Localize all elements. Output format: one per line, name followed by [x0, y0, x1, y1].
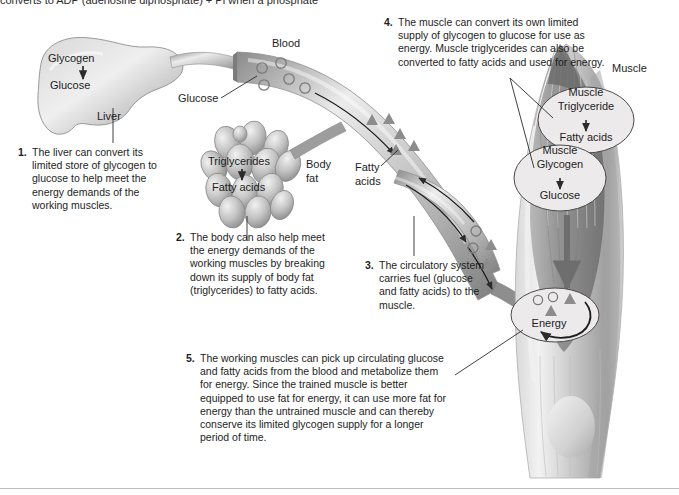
body-fat-illustration [196, 119, 306, 230]
muscle-triglyceride-product-label: Fatty acids [546, 130, 626, 144]
diagram-page: converts to ADP (adenosine diphosphate) … [0, 0, 679, 495]
callout-5-text: The working muscles can pick up circulat… [186, 352, 448, 444]
liver-label: Liver [97, 110, 121, 123]
liver-to-vessel-vessel [170, 52, 243, 71]
energy-label: Energy [518, 316, 580, 330]
triglycerides-label: Triglycerides [208, 155, 270, 168]
liver-glucose-label: Glucose [50, 79, 90, 92]
blood-glucose-label: Glucose [178, 92, 218, 105]
blood-label: Blood [272, 37, 300, 50]
callout-2: 2. The body can also help meet the energ… [176, 231, 334, 297]
body-fat-to-vessel-connector [290, 122, 346, 159]
callout-5-number: 5. [186, 352, 195, 365]
leader-lines [100, 76, 553, 375]
body-fat-label-line2: fat [306, 172, 318, 185]
muscle-triglyceride-label-line2: Triglyceride [540, 99, 632, 113]
callout-4: 4. The muscle can convert its own limite… [384, 16, 606, 69]
callout-4-text: The muscle can convert its own limited s… [384, 16, 606, 69]
fatty-acid-particles-mid [366, 113, 420, 155]
glucose-particles-upper [257, 58, 310, 93]
energy-bubble [511, 288, 599, 342]
vessel-fatty-acids-label-line2: acids [355, 175, 381, 188]
callout-3: 3. The circulatory system carries fuel (… [365, 259, 489, 312]
callout-1-number: 1. [18, 146, 27, 159]
callout-3-text: The circulatory system carries fuel (glu… [365, 259, 489, 312]
callout-2-number: 2. [176, 231, 185, 244]
muscle-label: Muscle [612, 62, 647, 75]
muscle-glycogen-product-label: Glucose [522, 188, 598, 202]
body-fat-label-line1: Body [306, 158, 331, 171]
callout-1: 1. The liver can convert its limited sto… [18, 146, 173, 212]
vessel-fatty-acids-label-line1: Fatty [355, 161, 379, 174]
callout-3-number: 3. [365, 259, 374, 272]
muscle-glycogen-label-line1: Muscle [520, 143, 600, 157]
liver-glycogen-label: Glycogen [48, 52, 94, 65]
truncated-header-text: converts to ADP (adenosine diphosphate) … [0, 0, 679, 6]
fat-fatty-acids-label: Fatty acids [212, 181, 265, 194]
callout-2-text: The body can also help meet the energy d… [176, 231, 334, 297]
callout-4-number: 4. [384, 16, 393, 29]
callout-5: 5. The working muscles can pick up circu… [186, 352, 448, 444]
bottom-divider [0, 488, 679, 489]
callout-1-text: The liver can convert its limited store … [18, 146, 173, 212]
muscle-triglyceride-label-line1: Muscle [546, 85, 626, 99]
muscle-glycogen-label-line2: Glycogen [518, 157, 602, 171]
